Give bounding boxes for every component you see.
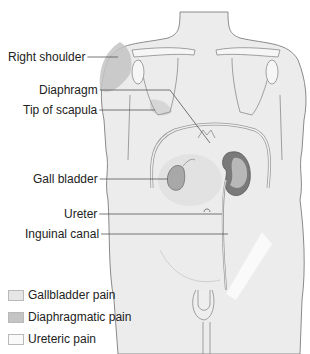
legend-item-ureteric-pain: Ureteric pain (8, 332, 96, 346)
anatomy-diagram: Right shoulderDiaphragmTip of scapulaGal… (0, 0, 310, 354)
genitals (193, 290, 214, 320)
label-tip-of-scapula: Tip of scapula (23, 103, 97, 117)
legend-label: Diaphragmatic pain (28, 310, 131, 324)
label-gall-bladder: Gall bladder (33, 172, 98, 186)
label-diaphragm: Diaphragm (39, 83, 98, 97)
legend-item-gallbladder-pain: Gallbladder pain (8, 288, 115, 302)
label-right-shoulder: Right shoulder (8, 50, 85, 64)
legend-label: Ureteric pain (28, 332, 96, 346)
legend-item-diaphragmatic-pain: Diaphragmatic pain (8, 310, 131, 324)
legend-label: Gallbladder pain (28, 288, 115, 302)
legend-swatch (8, 312, 24, 323)
legend-swatch (8, 290, 24, 301)
label-ureter: Ureter (64, 207, 97, 221)
label-inguinal-canal: Inguinal canal (25, 227, 99, 241)
legend-swatch (8, 334, 24, 345)
